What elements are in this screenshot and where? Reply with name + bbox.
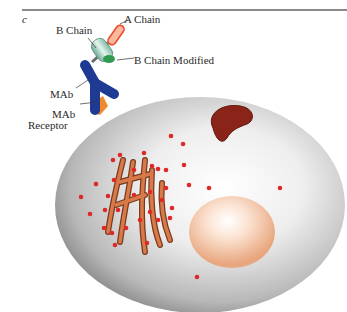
label-b-chain: B Chain (56, 24, 92, 36)
vesicle (150, 164, 155, 169)
vesicle (169, 134, 174, 139)
vesicle (79, 195, 84, 200)
vesicle (168, 216, 173, 221)
vesicle (278, 186, 283, 191)
b-chain-modified (103, 55, 115, 63)
vesicle (132, 193, 137, 198)
cell-body (55, 97, 345, 312)
vesicle (195, 275, 200, 280)
a-chain (106, 24, 125, 47)
vesicle (106, 194, 111, 199)
vesicle (164, 186, 169, 191)
vesicle (187, 183, 192, 188)
vesicle (111, 158, 116, 163)
vesicle (103, 208, 108, 213)
label-b-chain-modified: B Chain Modified (134, 54, 214, 66)
vesicle (118, 153, 123, 158)
vesicle (170, 206, 175, 211)
vesicle (113, 243, 118, 248)
vesicle (182, 163, 187, 168)
vesicle (138, 218, 143, 223)
vesicle (148, 190, 153, 195)
vesicle (124, 226, 129, 231)
vesicle (181, 142, 186, 147)
vesicle (110, 231, 115, 236)
vesicle (156, 167, 161, 172)
vesicle (116, 208, 121, 213)
label-a-chain: A Chain (124, 13, 160, 25)
vesicle (160, 198, 165, 203)
vesicle (102, 226, 107, 231)
cell-diagram (0, 0, 347, 312)
vesicle (148, 210, 153, 215)
label-mab: MAb (50, 88, 73, 100)
vesicle (112, 178, 117, 183)
vesicle (164, 168, 169, 173)
vesicle (156, 218, 161, 223)
vesicle (142, 151, 147, 156)
vesicle (88, 212, 93, 217)
vesicle (145, 241, 150, 246)
vesicle (132, 168, 137, 173)
label-mab-receptor-line2: Receptor (28, 119, 68, 131)
vesicle (94, 182, 99, 187)
nucleus (189, 196, 275, 268)
vesicle (207, 186, 212, 191)
